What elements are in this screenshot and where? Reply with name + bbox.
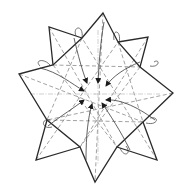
crease-lines <box>19 13 173 182</box>
back-star-points <box>36 27 157 160</box>
collapse-arrows <box>40 22 155 160</box>
center-point <box>94 93 96 95</box>
origami-star-diagram <box>0 0 179 188</box>
